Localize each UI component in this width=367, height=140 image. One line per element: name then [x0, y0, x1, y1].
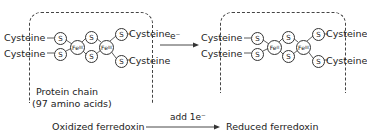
- cysteine-label: Cysteine: [201, 32, 242, 43]
- cysteine-label: Cysteine: [129, 55, 170, 66]
- cysteine-label: Cysteine: [129, 28, 170, 39]
- bridging-sulfur-atom: S: [85, 50, 98, 63]
- bridging-sulfur-atom: S: [85, 31, 98, 44]
- cysteine-label: Cysteine: [201, 48, 242, 59]
- reactant-label: Oxidized ferredoxin: [52, 121, 145, 132]
- bridging-sulfur-atom: S: [282, 50, 295, 63]
- reaction-arrow-label: add 1e⁻: [170, 112, 206, 122]
- electron-label: e⁻: [170, 31, 180, 41]
- sulfur-atom: S: [54, 32, 67, 45]
- cysteine-label: Cysteine: [4, 48, 45, 59]
- sulfur-atom: S: [251, 48, 264, 61]
- iron-atom: FeIII: [296, 40, 311, 55]
- amino-acid-count-label: (97 amino acids): [32, 98, 112, 109]
- sulfur-atom: S: [115, 28, 128, 41]
- sulfur-atom: S: [312, 28, 325, 41]
- sulfur-atom: S: [54, 48, 67, 61]
- sulfur-atom: S: [115, 55, 128, 68]
- iron-atom: FeIII: [70, 40, 85, 55]
- bridging-sulfur-atom: S: [282, 31, 295, 44]
- cysteine-label: Cysteine: [4, 32, 45, 43]
- iron-atom: FeIII: [99, 40, 114, 55]
- sulfur-atom: S: [251, 32, 264, 45]
- cysteine-label: Cysteine: [326, 55, 367, 66]
- sulfur-atom: S: [312, 55, 325, 68]
- iron-atom: FeII: [267, 40, 282, 55]
- cysteine-label: Cysteine: [326, 28, 367, 39]
- protein-chain-label: Protein chain: [36, 86, 98, 97]
- product-label: Reduced ferredoxin: [226, 121, 319, 132]
